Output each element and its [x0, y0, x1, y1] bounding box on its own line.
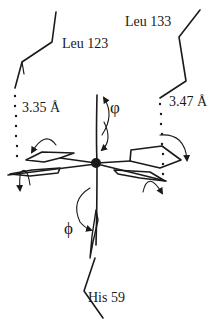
leu123-sidechain: [15, 12, 56, 88]
left-lower-ring: [8, 164, 96, 176]
label-his59: His 59: [88, 290, 125, 305]
label-distance-335: 3.35 Å: [22, 100, 61, 115]
diagram-canvas: Leu 123 Leu 133 His 59 3.35 Å 3.47 Å φ ϕ: [0, 0, 218, 329]
label-leu123: Leu 123: [62, 36, 108, 51]
his59-sidechain: [84, 258, 103, 318]
label-angle-varphi: φ: [110, 98, 120, 117]
left-upper-ring: [26, 152, 96, 163]
label-leu133: Leu 133: [125, 14, 171, 29]
right-upper-ring: [97, 146, 181, 168]
label-distance-347: 3.47 Å: [169, 94, 208, 109]
metal-center: [91, 158, 101, 168]
label-angle-phi: ϕ: [64, 219, 73, 238]
diagram-svg: Leu 123 Leu 133 His 59 3.35 Å 3.47 Å φ ϕ: [0, 0, 218, 329]
distance-line-left: [14, 95, 18, 157]
distance-line-right: [159, 103, 164, 175]
